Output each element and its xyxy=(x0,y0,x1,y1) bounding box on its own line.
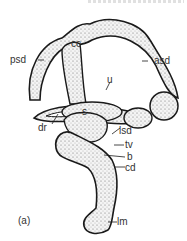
label-u: u xyxy=(107,75,113,85)
label-cc: cc xyxy=(71,39,81,49)
label-b: b xyxy=(127,152,133,162)
label-lsd: lsd xyxy=(119,126,132,136)
label-tv: tv xyxy=(125,140,133,150)
label-asd: asd xyxy=(154,56,170,66)
labyrinth-diagram xyxy=(0,0,187,241)
label-psd: psd xyxy=(10,55,26,65)
label-cd: cd xyxy=(125,163,136,173)
label-dr: dr xyxy=(38,123,47,133)
label-lm: lm xyxy=(117,217,128,227)
label-s: s xyxy=(82,107,87,117)
cochlear-duct xyxy=(56,132,117,234)
panel-label: (a) xyxy=(18,216,30,226)
